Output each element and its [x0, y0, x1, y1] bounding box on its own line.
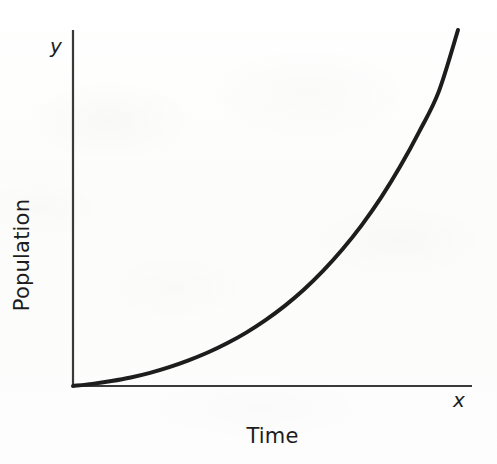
- y-axis-title: Population: [10, 165, 34, 345]
- x-axis-variable-label: x: [453, 390, 465, 410]
- x-axis-title: Time: [0, 424, 497, 448]
- plot-canvas: [0, 0, 497, 464]
- y-axis-variable-label: y: [50, 36, 62, 56]
- exponential-curve: [73, 30, 458, 386]
- exponential-growth-figure: y x Population Time: [0, 0, 497, 464]
